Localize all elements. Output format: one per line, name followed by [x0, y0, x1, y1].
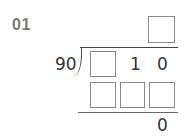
divisor: 90 — [55, 56, 77, 73]
division-bar — [80, 47, 178, 48]
product-answer-box-2[interactable] — [120, 82, 145, 108]
dividend-digit-1: 1 — [130, 56, 141, 73]
subtraction-line — [78, 112, 178, 113]
remainder: 0 — [157, 117, 168, 134]
dividend-digit-2: 0 — [157, 56, 168, 73]
quotient-answer-box[interactable] — [148, 16, 175, 43]
product-answer-box-3[interactable] — [149, 82, 175, 108]
problem-number: 01 — [12, 16, 31, 34]
product-answer-box-1[interactable] — [90, 82, 116, 108]
dividend-answer-box[interactable] — [90, 51, 116, 77]
